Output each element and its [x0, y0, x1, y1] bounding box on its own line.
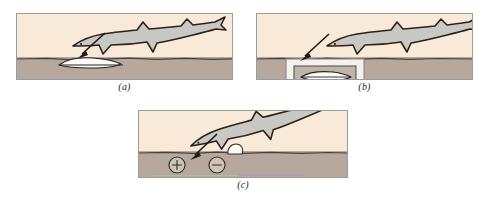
panel-a: (a) — [16, 13, 233, 80]
purple-tint-strip-c — [239, 175, 305, 177]
electrode-negative-c — [207, 155, 227, 175]
panel-b: (b) — [256, 13, 473, 80]
panel-b-frame — [256, 13, 473, 80]
buried-object-c — [225, 142, 245, 158]
panel-c: (c) — [138, 110, 348, 178]
panel-a-frame — [16, 13, 233, 80]
panel-c-caption: (c) — [138, 179, 348, 190]
flatfish-buried-a — [55, 56, 127, 70]
shark-icon-b — [323, 16, 473, 58]
panel-c-frame — [138, 110, 348, 178]
panel-a-caption: (a) — [16, 81, 233, 92]
panel-b-caption: (b) — [256, 81, 473, 92]
electrode-positive-c — [167, 155, 187, 175]
attack-arrow-b — [291, 30, 333, 64]
figure-shark-electroreception: (a) ( — [0, 0, 486, 198]
